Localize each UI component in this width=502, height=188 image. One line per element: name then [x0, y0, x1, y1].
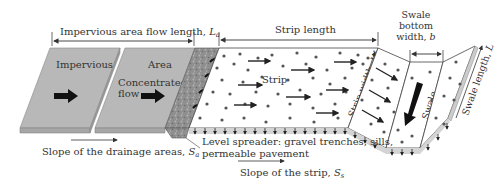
impervious-label: Impervious	[56, 59, 113, 70]
strip-label: Strip	[262, 74, 287, 85]
slope-strip-annotation: Slope of the strip, Ss	[238, 161, 345, 180]
slope-drainage-label: Slope of the drainage areas, Sa	[42, 146, 199, 159]
swale-bottom-width-label-2: bottom	[399, 20, 433, 31]
swale-bottom-width-label-3: width, b	[396, 31, 435, 42]
swale-bottom-width-label-1: Swale	[402, 9, 431, 20]
vegetated-filter-strip-diagram: Impervious area flow length, La Strip le…	[0, 0, 502, 188]
level-spreader-label-1: Level spreader: gravel trenches, sills,	[202, 136, 393, 147]
level-spreader-annotation: Level spreader: gravel trenches, sills, …	[202, 136, 393, 159]
strip-length-dimension: Strip length	[219, 24, 378, 46]
swale-bottom-width-dimension: Swale bottom width, b	[396, 9, 443, 62]
impervious-flow-length-dimension: Impervious area flow length, La	[52, 26, 220, 46]
concentrated-label-1: Concentrated	[118, 77, 188, 88]
concentrated-label-2: flow	[118, 88, 140, 99]
strip-length-label: Strip length	[275, 24, 336, 35]
slope-strip-label: Slope of the strip, Ss	[240, 167, 345, 180]
area-label: Area	[147, 59, 172, 70]
slope-drainage-annotation: Slope of the drainage areas, Sa	[42, 140, 199, 159]
level-spreader-label-2: permeable pavement	[202, 148, 309, 159]
impervious-flow-length-label: Impervious area flow length, La	[60, 26, 220, 39]
